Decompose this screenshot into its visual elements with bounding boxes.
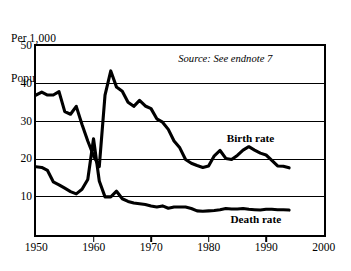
y-tick-label-40: 40 bbox=[6, 78, 32, 90]
x-tick-label-1950: 1950 bbox=[25, 242, 48, 254]
gridline-40 bbox=[36, 83, 324, 84]
y-tick-label-10: 10 bbox=[6, 191, 32, 203]
gridline-10 bbox=[36, 196, 324, 197]
y-tick-label-20: 20 bbox=[6, 153, 32, 165]
y-tick-label-30: 30 bbox=[6, 116, 32, 128]
birth-rate-label: Birth rate bbox=[227, 133, 275, 145]
gridline-30 bbox=[36, 121, 324, 122]
x-tick-label-1990: 1990 bbox=[255, 242, 278, 254]
plot-area bbox=[34, 44, 326, 237]
x-tick-label-1980: 1980 bbox=[197, 242, 220, 254]
y-tick-label-50: 50 bbox=[6, 40, 32, 52]
birth-rate-line bbox=[36, 71, 289, 168]
source-note: Source: See endnote 7 bbox=[178, 53, 272, 64]
x-tick-label-1960: 1960 bbox=[82, 242, 105, 254]
death-rate-label: Death rate bbox=[231, 214, 282, 226]
x-tick-label-1970: 1970 bbox=[140, 242, 163, 254]
chart-figure: Per 1,000 Population 50 40 30 20 10 1950… bbox=[0, 0, 351, 271]
x-tick-label-2000: 2000 bbox=[312, 242, 335, 254]
gridline-20 bbox=[36, 159, 324, 160]
plot-inner bbox=[36, 46, 324, 235]
data-lines bbox=[36, 46, 324, 235]
